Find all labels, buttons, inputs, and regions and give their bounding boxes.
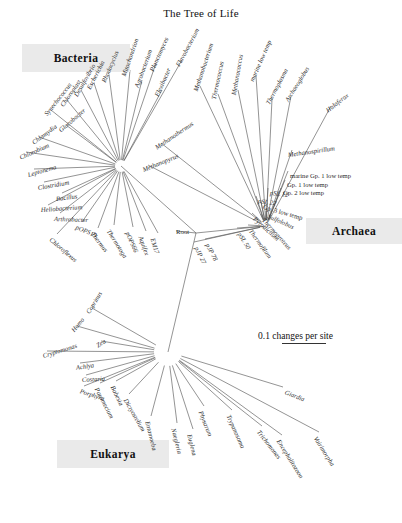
domain-label-archaea: Archaea <box>306 218 402 244</box>
scale-bar-label: 0.1 changes per site <box>258 331 388 341</box>
scale-bar-line <box>282 343 326 344</box>
branch-eukarya-tip-8 <box>116 359 156 381</box>
branch-eukarya-tip-9 <box>129 362 158 394</box>
branch-bacteria-tip-16 <box>82 171 118 222</box>
taxon-label-gp-2-low-temp: Gp. 2 low temp <box>283 190 324 197</box>
branch-eukarya-tip-12 <box>172 365 193 429</box>
branch-bacteria-tip-21 <box>123 172 146 231</box>
branch-bacteria-tip-10 <box>26 152 115 165</box>
branch-bacteria-tip-22 <box>124 171 158 233</box>
branch-bacteria-tip-23 <box>124 60 182 161</box>
branch-eukarya-tip-13 <box>176 364 204 406</box>
branch-eukarya-tip-2 <box>101 341 154 350</box>
branch-eukarya-tip-10 <box>151 366 164 416</box>
branch-eukarya-stem <box>168 233 196 352</box>
taxon-label-marine-gp-1-low-temp: marine Gp. 1 low temp <box>290 173 351 180</box>
branch-bacteria-tip-7 <box>51 110 116 162</box>
taxon-label-arthrobacter: Arthrobacter <box>54 216 88 224</box>
branch-bacteria-tip-18 <box>98 172 119 228</box>
branch-archaea-tip-0 <box>200 86 263 221</box>
branch-eukarya-tip-1 <box>77 326 155 348</box>
taxon-label-costaria: Costaria <box>82 376 105 384</box>
branch-bacteria-tip-8 <box>66 125 116 162</box>
root-label: Root <box>176 228 189 235</box>
scale-bar: 0.1 changes per site <box>258 331 388 344</box>
branch-eukarya-tip-11 <box>170 366 177 423</box>
branch-bacteria-tip-19 <box>114 172 120 225</box>
tree-of-life-figure: The Tree of Life Bacteria Archaea Eukary… <box>0 0 402 523</box>
branch-archaea-tip-9 <box>148 165 261 223</box>
branch-bacteria-tip-20 <box>122 172 133 227</box>
branch-eukarya-tip-15 <box>181 356 283 387</box>
branch-eukarya-tip-16 <box>179 361 262 426</box>
branch-eukarya-tip-7 <box>100 358 155 383</box>
taxon-label-gp-1-low-temp: Gp. 1 low temp <box>287 182 328 189</box>
branch-bacteria-tip-9 <box>39 137 115 164</box>
